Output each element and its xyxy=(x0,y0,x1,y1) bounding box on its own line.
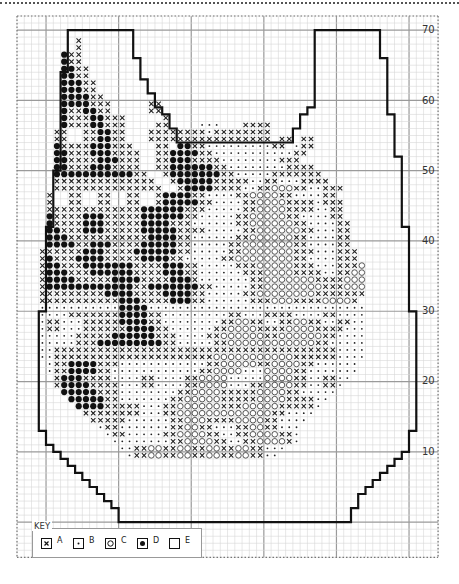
row-label-40: 40 xyxy=(422,235,435,246)
row-label-60: 60 xyxy=(422,95,435,106)
filled-circle-symbol-icon xyxy=(137,538,148,549)
key-item-c: C xyxy=(105,538,127,549)
key-label-d: D xyxy=(153,536,159,545)
key-title: KEY xyxy=(32,521,52,531)
row-label-70: 70 xyxy=(422,24,435,35)
row-label-50: 50 xyxy=(422,165,435,176)
key-item-a: A xyxy=(41,538,62,549)
key-label-c: C xyxy=(121,536,127,545)
key-item-d: D xyxy=(137,538,159,549)
blank-symbol-icon xyxy=(169,538,180,549)
key-label-b: B xyxy=(89,536,95,545)
ring-symbol-icon xyxy=(105,538,116,549)
dot-symbol-icon xyxy=(73,538,84,549)
symbol-key: A B C D E xyxy=(32,528,202,558)
cross-symbol-icon xyxy=(41,538,52,549)
row-label-30: 30 xyxy=(422,305,435,316)
key-item-b: B xyxy=(73,538,95,549)
row-label-20: 20 xyxy=(422,375,435,386)
key-label-a: A xyxy=(57,536,62,545)
key-item-e: E xyxy=(169,538,190,549)
row-label-10: 10 xyxy=(422,446,435,457)
key-label-e: E xyxy=(185,536,190,545)
cross-stitch-chart xyxy=(0,0,459,584)
